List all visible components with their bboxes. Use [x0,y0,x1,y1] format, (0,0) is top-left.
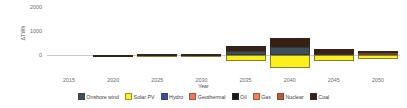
legend-label: Nuclear [286,94,304,100]
y-axis-tick-label: 0 [16,52,42,59]
legend-label: Coal [318,94,329,100]
legend-item[interactable]: Solar PV [125,93,155,100]
legend-item[interactable]: Onshore wind [78,93,119,100]
stacked-bar[interactable] [358,4,398,72]
chart-figure: ΔTWh 200010000 2015202020252030203520402… [0,0,407,108]
bar-segment[interactable] [93,55,133,57]
legend-item[interactable]: Gas [253,93,271,100]
stacked-bar[interactable] [93,4,133,72]
legend-item[interactable]: Oil [232,93,247,100]
legend-swatch-icon [310,93,317,100]
legend-item[interactable]: Geothermal [189,93,225,100]
x-axis-label: Year [0,83,407,89]
legend-label: Oil [240,94,246,100]
stacked-bar[interactable] [137,4,177,72]
bar-segment[interactable] [226,46,266,51]
stacked-bar[interactable] [314,4,354,72]
legend-swatch-icon [78,93,85,100]
bar-segment[interactable] [181,54,221,56]
bar-segment[interactable] [314,49,354,55]
legend-swatch-icon [125,93,132,100]
legend-item[interactable]: Coal [310,93,330,100]
legend-swatch-icon [253,93,260,100]
bar-segment[interactable] [226,55,266,61]
stacked-bar[interactable] [226,4,266,72]
bar-segment[interactable] [137,54,177,56]
y-axis-tick-label: 1000 [16,28,42,35]
legend-label: Gas [261,94,271,100]
stacked-bar[interactable] [270,4,310,72]
legend-swatch-icon [161,93,168,100]
bar-segment[interactable] [270,55,310,68]
bar-segment[interactable] [358,51,398,53]
legend-swatch-icon [189,93,196,100]
bar-segment[interactable] [270,47,310,55]
y-axis-tick-label: 2000 [16,4,42,11]
plot-area [47,4,400,72]
stacked-bar[interactable] [181,4,221,72]
legend-swatch-icon [232,93,239,100]
legend-label: Onshore wind [86,94,119,100]
legend-label: Solar PV [134,94,155,100]
bar-segment[interactable] [181,55,221,57]
legend-label: Geothermal [198,94,226,100]
legend-item[interactable]: Nuclear [277,93,304,100]
legend-label: Hydro [169,94,183,100]
bar-segment[interactable] [358,55,398,59]
legend-swatch-icon [277,93,284,100]
bar-segment[interactable] [270,38,310,47]
chart-legend: Onshore windSolar PVHydroGeothermalOilGa… [0,93,407,100]
bar-segment[interactable] [314,55,354,61]
legend-item[interactable]: Hydro [161,93,184,100]
stacked-bar[interactable] [49,4,89,72]
